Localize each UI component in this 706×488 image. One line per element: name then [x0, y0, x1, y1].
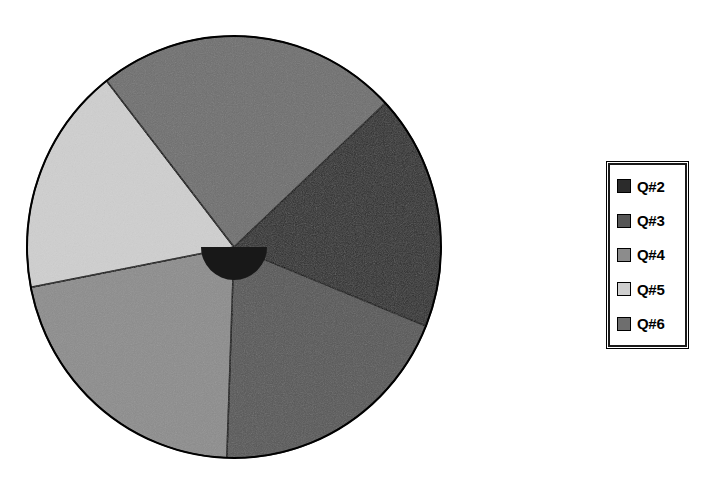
pie-chart — [0, 0, 470, 488]
legend-item-q5[interactable]: Q#5 — [617, 277, 664, 301]
legend-swatch-icon — [617, 317, 631, 331]
legend-label: Q#5 — [637, 282, 664, 297]
legend-label: Q#2 — [637, 179, 664, 194]
legend-swatch-icon — [617, 282, 631, 296]
legend-swatch-icon — [617, 214, 631, 228]
legend-inner-frame: Q#2 Q#3 Q#4 Q#5 Q#6 — [608, 163, 687, 347]
legend-label: Q#4 — [637, 247, 664, 262]
legend-item-q6[interactable]: Q#6 — [617, 312, 664, 336]
legend-item-q2[interactable]: Q#2 — [617, 174, 664, 198]
legend-label: Q#3 — [637, 213, 664, 228]
pie-chart-svg — [0, 0, 470, 488]
legend-swatch-icon — [617, 248, 631, 262]
chart-canvas: Q#2 Q#3 Q#4 Q#5 Q#6 — [0, 0, 706, 488]
legend-label: Q#6 — [637, 316, 664, 331]
chart-legend: Q#2 Q#3 Q#4 Q#5 Q#6 — [606, 161, 689, 349]
legend-item-q3[interactable]: Q#3 — [617, 209, 664, 233]
legend-item-q4[interactable]: Q#4 — [617, 243, 664, 267]
legend-swatch-icon — [617, 179, 631, 193]
